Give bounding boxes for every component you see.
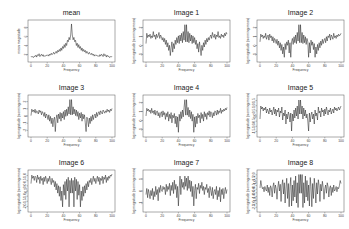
x-tick-label: 100 [224, 214, 230, 218]
y-axis-label: log magnitude (norming mean) [17, 93, 21, 139]
x-tick-label: 0 [30, 64, 32, 68]
x-tick-label: 20 [274, 139, 278, 143]
chart-title: Image 8 [288, 159, 313, 167]
x-axis-label: Frequency [292, 218, 308, 222]
x-tick-label: 20 [160, 214, 164, 218]
y-axis-label: log magnitude (norming mean) [132, 18, 136, 64]
chart-panel: mean0204060801002468Frequencymean magnit… [17, 9, 115, 72]
x-tick-label: 100 [338, 139, 344, 143]
data-line [31, 100, 112, 132]
plot-frame [28, 170, 115, 212]
data-line [260, 175, 341, 208]
x-axis-label: Frequency [292, 68, 308, 72]
data-line [146, 100, 227, 133]
y-tick-label: 0 [139, 190, 143, 192]
chart-panel: Image 7020406080100-101Frequencylog magn… [132, 159, 230, 222]
y-tick-label: 0 [253, 44, 257, 46]
x-tick-label: 100 [338, 64, 344, 68]
y-tick-label: 1.0 [24, 173, 28, 178]
x-tick-label: 100 [109, 64, 115, 68]
x-tick-label: 20 [45, 139, 49, 143]
y-tick-label: 2 [253, 26, 257, 28]
x-axis-label: Frequency [178, 218, 194, 222]
x-tick-label: 80 [323, 64, 327, 68]
x-tick-label: 0 [145, 214, 147, 218]
x-tick-label: 80 [94, 139, 98, 143]
y-tick-label: 2.0 [253, 172, 257, 177]
y-axis-label: log magnitude (norming mean) [17, 168, 21, 214]
data-line [260, 25, 341, 58]
y-tick-label: 0.0 [24, 183, 28, 188]
y-tick-label: 4 [24, 44, 28, 46]
x-tick-label: 100 [224, 64, 230, 68]
y-tick-label: 0 [24, 115, 28, 117]
x-tick-label: 0 [145, 64, 147, 68]
y-axis-label: log magnitude (norming mean) [246, 18, 250, 64]
chart-title: Image 5 [288, 84, 313, 92]
y-tick-label: 2 [24, 53, 28, 55]
x-axis-label: Frequency [63, 68, 79, 72]
y-tick-label: -1 [139, 201, 143, 204]
y-tick-label: 1 [253, 35, 257, 37]
y-tick-label: 2 [24, 101, 28, 103]
y-tick-label: -1 [139, 128, 143, 131]
data-line [146, 25, 227, 56]
y-axis-label: log magnitude (norming mean) [246, 93, 250, 139]
y-tick-label: 1 [139, 178, 143, 180]
x-tick-label: 20 [160, 64, 164, 68]
x-tick-label: 0 [259, 139, 261, 143]
y-tick-label: 1.0 [253, 103, 257, 108]
x-tick-label: 80 [323, 139, 327, 143]
y-tick-label: 0 [139, 44, 143, 46]
x-tick-label: 0 [259, 64, 261, 68]
y-tick-label: 8 [24, 26, 28, 28]
data-line [260, 100, 341, 131]
figure-grid: mean0204060801002468Frequencymean magnit… [0, 0, 349, 229]
x-tick-label: 100 [109, 139, 115, 143]
y-tick-label: -1 [24, 122, 28, 125]
chart-panel: Image 3020406080100-2-1012Frequencylog m… [17, 84, 115, 147]
y-tick-label: -1 [253, 53, 257, 56]
y-tick-label: 1 [139, 110, 143, 112]
x-tick-label: 20 [274, 64, 278, 68]
data-line [31, 24, 112, 58]
x-tick-label: 20 [45, 214, 49, 218]
x-axis-label: Frequency [63, 143, 79, 147]
x-tick-label: 0 [30, 214, 32, 218]
x-tick-label: 100 [338, 214, 344, 218]
chart-title: Image 3 [59, 84, 84, 92]
x-axis-label: Frequency [292, 143, 308, 147]
y-tick-label: 6 [24, 35, 28, 37]
charts-svg: mean0204060801002468Frequencymean magnit… [0, 0, 349, 229]
y-axis-label: log magnitude (norming mean) [132, 168, 136, 214]
x-axis-label: Frequency [178, 68, 194, 72]
x-tick-label: 80 [209, 64, 213, 68]
y-tick-label: 0.0 [253, 114, 257, 119]
x-tick-label: 100 [224, 139, 230, 143]
chart-panel: Image 1020406080100-1012Frequencylog mag… [132, 9, 230, 72]
y-tick-label: 0.5 [253, 108, 257, 113]
x-tick-label: 80 [94, 64, 98, 68]
y-tick-label: 1 [24, 108, 28, 110]
x-tick-label: 20 [160, 139, 164, 143]
y-axis-label: log magnitude (norming mean) [132, 93, 136, 139]
y-tick-label: 2 [139, 26, 143, 28]
chart-title: Image 6 [59, 159, 84, 167]
chart-title: Image 1 [174, 9, 199, 17]
x-tick-label: 80 [94, 214, 98, 218]
y-tick-label: -1 [139, 53, 143, 56]
x-tick-label: 80 [209, 139, 213, 143]
y-tick-label: 1.5 [253, 98, 257, 103]
y-tick-label: 1 [139, 35, 143, 37]
y-tick-label: 0 [139, 119, 143, 121]
chart-title: mean [63, 9, 81, 16]
x-tick-label: 0 [259, 214, 261, 218]
x-tick-label: 0 [30, 139, 32, 143]
data-line [146, 176, 227, 206]
y-tick-label: 0.5 [24, 178, 28, 183]
chart-panel: Image 2020406080100-1012Frequencylog mag… [246, 9, 344, 72]
x-tick-label: 100 [109, 214, 115, 218]
chart-title: Image 2 [288, 9, 313, 17]
chart-panel: Image 5020406080100-1.5-1.0-0.50.00.51.0… [246, 84, 344, 147]
y-axis-label: log magnitude (norming mean) [246, 168, 250, 214]
